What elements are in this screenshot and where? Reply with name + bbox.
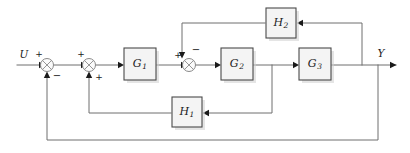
output-signal-label: Y <box>378 48 385 59</box>
block-h2-label: H2 <box>273 17 288 29</box>
wire-g3-to-output <box>331 62 397 68</box>
sum2-sign-plus-bottom: + <box>95 73 103 82</box>
sum1-sign-plus: + <box>35 50 43 59</box>
summing-junction-3[interactable] <box>183 59 196 72</box>
block-g2-label: G2 <box>230 58 244 70</box>
block-g1-label: G1 <box>133 58 147 70</box>
input-signal-label: U <box>20 49 29 60</box>
sum1-sign-minus: − <box>53 71 61 81</box>
wire-sum2-to-g1 <box>96 62 125 68</box>
block-diagram-canvas: U Y G1 G2 G3 H1 H2 + − + + + − <box>0 0 410 153</box>
sum2-sign-plus-top: + <box>77 50 85 59</box>
block-h1-label: H1 <box>179 106 194 118</box>
sum3-sign-minus: − <box>192 45 200 55</box>
block-diagram-svg <box>0 0 410 153</box>
summing-junction-1[interactable] <box>41 59 54 72</box>
wire-sum1-to-sum2 <box>54 62 87 68</box>
summing-junction-2[interactable] <box>83 59 96 72</box>
block-g3-label: G3 <box>308 58 322 70</box>
wire-sum3-to-g2 <box>196 62 222 68</box>
sum3-sign-plus: + <box>174 51 182 60</box>
wire-g1-to-sum3 <box>156 62 187 68</box>
wire-g2-to-g3 <box>253 62 299 68</box>
